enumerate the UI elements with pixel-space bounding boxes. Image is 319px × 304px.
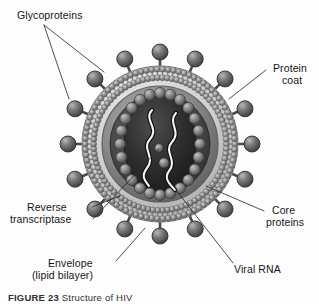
phospholipid-head — [230, 125, 236, 131]
glycoprotein-spike — [237, 171, 253, 187]
phospholipid-head — [83, 130, 89, 136]
phospholipid-head — [231, 130, 237, 136]
core-protein — [189, 164, 200, 175]
core-protein — [144, 89, 155, 100]
glycoprotein-spike — [117, 221, 133, 237]
label-core-proteins-line1: Core — [272, 205, 295, 217]
core-protein — [116, 125, 127, 136]
phospholipid-head — [171, 215, 177, 221]
phospholipid-head — [160, 66, 166, 72]
glycoprotein-spike — [187, 51, 203, 67]
phospholipid-head — [143, 215, 149, 221]
phospholipid-head — [149, 67, 155, 73]
phospholipid-head — [232, 141, 238, 147]
phospholipid-head — [231, 152, 237, 158]
glycoprotein-spike — [217, 201, 233, 217]
core-protein — [189, 113, 200, 124]
leader-glycoproteins-b — [44, 25, 69, 99]
glycoprotein-spike — [244, 136, 260, 152]
phospholipid-head — [143, 67, 149, 73]
label-protein-coat-line2: coat — [282, 75, 302, 87]
glycoprotein-spike — [60, 136, 76, 152]
core-protein — [193, 152, 204, 163]
phospholipid-head — [85, 163, 91, 169]
phospholipid-head — [82, 146, 88, 152]
reverse-transcriptase-enzyme-2 — [159, 158, 169, 168]
phospholipid-head — [154, 216, 160, 222]
core-protein — [193, 125, 204, 136]
phospholipid-head — [230, 157, 236, 163]
glycoprotein-spike — [87, 71, 103, 87]
core-protein — [135, 183, 146, 194]
core-protein — [115, 139, 126, 150]
phospholipid-head — [232, 136, 238, 142]
figure-caption: FIGURE 23 Structure of HIV — [8, 292, 133, 303]
label-envelope-line1: Envelope — [48, 258, 93, 270]
phospholipid-head — [171, 67, 177, 73]
core-protein — [175, 94, 186, 105]
core-protein — [183, 102, 194, 113]
label-reverse-transcriptase-line1: Reverse — [27, 202, 67, 214]
core-protein — [183, 175, 194, 186]
core-protein — [120, 113, 131, 124]
leader-glycoproteins-a — [44, 25, 104, 72]
phospholipid-head — [229, 119, 235, 125]
glycoprotein-spike — [152, 228, 168, 244]
phospholipid-head — [223, 136, 229, 142]
phospholipid-head — [149, 215, 155, 221]
label-reverse-transcriptase-line2: transcriptase — [10, 214, 71, 226]
phospholipid-head — [232, 146, 238, 152]
label-core-proteins-line2: proteins — [266, 217, 304, 229]
phospholipid-head — [83, 152, 89, 158]
glycoprotein-spike — [152, 44, 168, 60]
figure-caption-text: Structure of HIV — [62, 292, 133, 303]
core-protein — [135, 94, 146, 105]
figure-canvas: Glycoproteins Protein coat Core proteins… — [0, 0, 319, 304]
core-protein — [144, 188, 155, 199]
phospholipid-head — [160, 216, 166, 222]
core-protein — [126, 102, 137, 113]
leader-protein-coat — [229, 70, 266, 99]
phospholipid-head — [176, 213, 182, 219]
glycoprotein-spike — [187, 221, 203, 237]
phospholipid-head — [154, 66, 160, 72]
label-glycoproteins: Glycoproteins — [17, 10, 83, 22]
label-protein-coat-line1: Protein — [273, 63, 307, 75]
core-protein — [126, 175, 137, 186]
core-protein — [120, 164, 131, 175]
core-protein — [195, 139, 206, 150]
figure-number: FIGURE 23 — [8, 292, 59, 303]
core-protein — [155, 190, 166, 201]
phospholipid-head — [165, 215, 171, 221]
phospholipid-head — [82, 136, 88, 142]
label-viral-rna: Viral RNA — [234, 264, 281, 276]
phospholipid-head — [84, 157, 90, 163]
glycoprotein-spike — [67, 101, 83, 117]
reverse-transcriptase-enzyme-1 — [155, 144, 164, 153]
glycoprotein-spike — [67, 171, 83, 187]
core-protein — [165, 89, 176, 100]
phospholipid-head — [138, 69, 144, 75]
core-protein — [116, 152, 127, 163]
label-envelope-line2: (lipid bilayer) — [32, 270, 93, 282]
phospholipid-head — [84, 125, 90, 131]
core-protein — [155, 88, 166, 99]
glycoprotein-spike — [117, 51, 133, 67]
phospholipid-head — [82, 141, 88, 147]
glycoprotein-spike — [237, 101, 253, 117]
phospholipid-head — [165, 67, 171, 73]
glycoprotein-spike — [217, 71, 233, 87]
